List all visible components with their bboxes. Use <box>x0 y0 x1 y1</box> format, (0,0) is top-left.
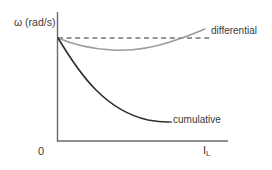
differential-series-label: differential <box>211 26 257 36</box>
origin-tick-label: 0 <box>38 146 44 157</box>
chart-figure: ω (rad/s) differential cumulative 0 IL <box>0 0 272 170</box>
differential-curve <box>58 29 205 50</box>
x-axis-label: IL <box>203 145 211 158</box>
y-axis-label: ω (rad/s) <box>14 17 55 28</box>
x-axis-label-subscript: L <box>206 149 210 158</box>
cumulative-series-label: cumulative <box>173 115 221 125</box>
